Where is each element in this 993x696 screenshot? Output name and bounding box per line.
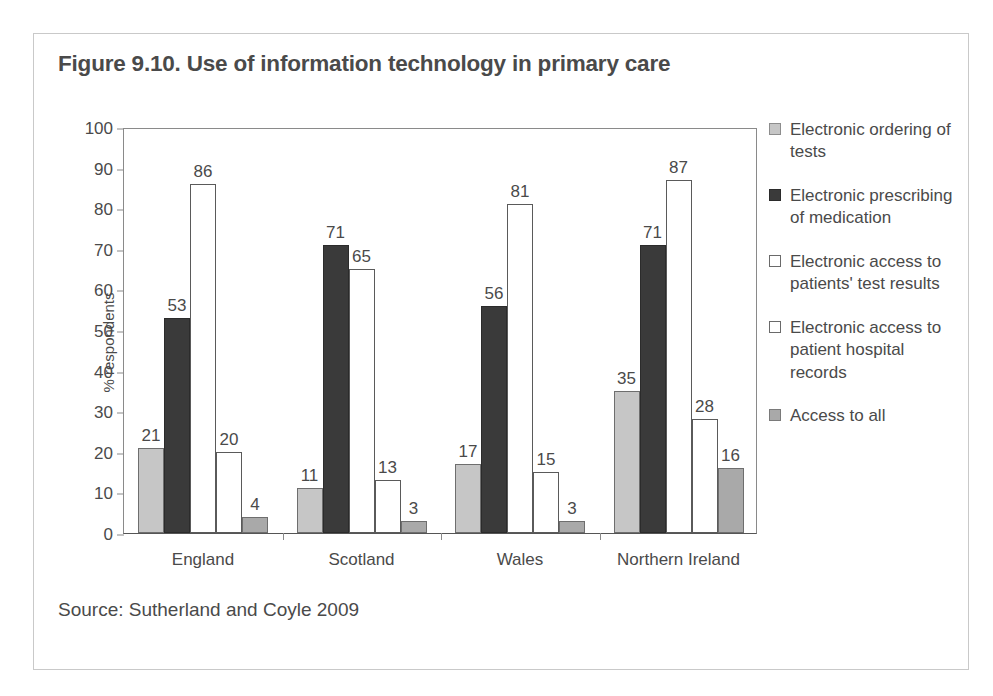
y-tick-mark (117, 413, 124, 414)
bar: 17 (455, 464, 481, 533)
legend-item[interactable]: Electronic ordering of tests (769, 119, 964, 164)
legend-swatch-icon (769, 123, 781, 135)
legend-swatch-icon (769, 255, 781, 267)
bar: 3 (401, 521, 427, 533)
x-axis-separator (441, 533, 442, 540)
y-tick-mark (117, 332, 124, 333)
legend-item[interactable]: Electronic access to patients' test resu… (769, 251, 964, 296)
bar-value-label: 17 (459, 442, 478, 462)
x-axis-label: Scotland (328, 550, 394, 570)
bar-value-label: 28 (695, 397, 714, 417)
bar-value-label: 56 (485, 284, 504, 304)
y-tick-mark (117, 494, 124, 495)
y-tick-mark (117, 169, 124, 170)
legend-swatch-icon (769, 321, 781, 333)
bar: 15 (533, 472, 559, 533)
bar: 13 (375, 480, 401, 533)
y-tick-mark (117, 535, 124, 536)
source-note: Source: Sutherland and Coyle 2009 (58, 599, 359, 621)
legend-label: Electronic access to patient hospital re… (790, 317, 964, 384)
bar-value-label: 71 (643, 223, 662, 243)
bar: 81 (507, 204, 533, 533)
bar-value-label: 53 (168, 296, 187, 316)
bar-value-label: 13 (378, 458, 397, 478)
bar: 71 (640, 245, 666, 533)
plot-area: 0102030405060708090100 21538620411716513… (123, 128, 757, 534)
y-tick-mark (117, 129, 124, 130)
x-axis-label: England (172, 550, 234, 570)
y-tick-mark (117, 291, 124, 292)
bar-value-label: 15 (537, 450, 556, 470)
bar-value-label: 20 (220, 430, 239, 450)
bar-value-label: 4 (250, 495, 259, 515)
legend-item[interactable]: Access to all (769, 405, 964, 427)
legend-swatch-icon (769, 189, 781, 201)
x-axis-label: Wales (497, 550, 544, 570)
bar-value-label: 86 (194, 162, 213, 182)
figure-container: Figure 9.10. Use of information technolo… (33, 33, 969, 670)
bar-value-label: 81 (511, 182, 530, 202)
bar-value-label: 65 (352, 247, 371, 267)
bar: 4 (242, 517, 268, 533)
bar: 21 (138, 448, 164, 533)
y-tick-mark (117, 210, 124, 211)
bar-value-label: 87 (669, 158, 688, 178)
x-axis-separator (600, 533, 601, 540)
bar: 35 (614, 391, 640, 533)
bar-value-label: 16 (721, 446, 740, 466)
bar: 28 (692, 419, 718, 533)
bar: 87 (666, 180, 692, 533)
bar: 65 (349, 269, 375, 533)
legend-swatch-icon (769, 409, 781, 421)
bar-value-label: 35 (617, 369, 636, 389)
bar: 3 (559, 521, 585, 533)
bar-value-label: 3 (409, 499, 418, 519)
bar: 71 (323, 245, 349, 533)
x-axis-label: Northern Ireland (617, 550, 740, 570)
bar-value-label: 3 (567, 499, 576, 519)
bar-value-label: 71 (326, 223, 345, 243)
x-axis-separator (283, 533, 284, 540)
bar-value-label: 11 (301, 466, 319, 486)
bar: 20 (216, 452, 242, 533)
y-tick-mark (117, 250, 124, 251)
bar: 11 (297, 488, 323, 533)
legend-item[interactable]: Electronic access to patient hospital re… (769, 317, 964, 384)
bar: 86 (190, 184, 216, 533)
y-tick-mark (117, 453, 124, 454)
bar: 56 (481, 306, 507, 533)
legend-label: Electronic ordering of tests (790, 119, 964, 164)
bar: 16 (718, 468, 744, 533)
legend-label: Access to all (790, 405, 885, 427)
legend-label: Electronic prescribing of medication (790, 185, 964, 230)
legend-item[interactable]: Electronic prescribing of medication (769, 185, 964, 230)
chart-legend: Electronic ordering of testsElectronic p… (769, 119, 964, 448)
bar-value-label: 21 (142, 426, 161, 446)
legend-label: Electronic access to patients' test resu… (790, 251, 964, 296)
bar: 53 (164, 318, 190, 533)
y-tick-mark (117, 372, 124, 373)
